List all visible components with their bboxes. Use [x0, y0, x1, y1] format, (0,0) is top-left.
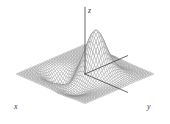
surface-plot-figure: x y z	[0, 0, 170, 124]
z-axis-label: z	[88, 7, 91, 15]
surface-mesh-canvas	[0, 0, 170, 124]
x-axis-label: x	[14, 103, 18, 111]
y-axis-label: y	[147, 103, 151, 111]
